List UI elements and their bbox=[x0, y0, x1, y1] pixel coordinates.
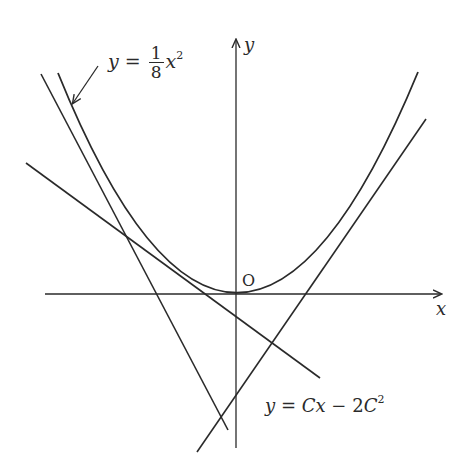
line-label-minus: − bbox=[326, 395, 353, 416]
line-label-term1: Cx bbox=[302, 395, 326, 416]
parabola-equation-label: y = 1 8 x2 bbox=[108, 44, 183, 81]
curve-label-exponent: 2 bbox=[176, 49, 183, 62]
line-label-exponent: 2 bbox=[377, 393, 384, 406]
curve-label-var: x bbox=[166, 50, 177, 72]
fraction-denominator: 8 bbox=[149, 63, 164, 81]
parabola-curve bbox=[58, 72, 418, 293]
tangent-equation-label: y = Cx − 2C2 bbox=[265, 393, 384, 416]
curve-label-eq: = bbox=[125, 50, 141, 72]
tangent-line-steep-left bbox=[41, 74, 228, 430]
line-label-coef: 2 bbox=[352, 395, 363, 416]
diagram-canvas: y x O y = 1 8 x2 y = Cx − 2C2 bbox=[0, 0, 469, 470]
x-axis-label: x bbox=[436, 298, 446, 319]
curve-label-fraction: 1 8 bbox=[149, 44, 164, 81]
curve-label-lhs: y bbox=[108, 50, 119, 72]
line-label-var: C bbox=[364, 395, 378, 416]
origin-label: O bbox=[242, 271, 255, 290]
line-label-eq: = bbox=[275, 395, 302, 416]
curve-label-arrow bbox=[73, 66, 98, 103]
tangent-line-shallow-left bbox=[26, 163, 320, 378]
diagram-svg bbox=[0, 0, 469, 470]
fraction-numerator: 1 bbox=[149, 44, 164, 63]
line-label-lhs: y bbox=[265, 395, 275, 416]
y-axis-label: y bbox=[244, 34, 254, 55]
